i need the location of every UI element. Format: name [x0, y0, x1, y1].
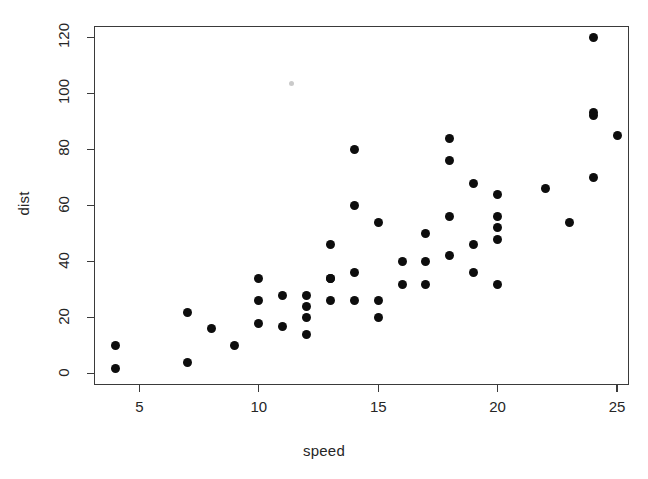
y-tick-mark — [87, 149, 94, 150]
x-tick-label: 5 — [119, 398, 159, 415]
data-point — [326, 296, 335, 305]
y-tick-mark — [87, 373, 94, 374]
data-point — [302, 302, 311, 311]
y-tick-mark — [87, 37, 94, 38]
data-point — [493, 223, 502, 232]
data-point — [254, 296, 263, 305]
data-point — [589, 33, 598, 42]
data-point — [493, 235, 502, 244]
data-point — [111, 341, 120, 350]
x-tick-label: 25 — [597, 398, 637, 415]
x-tick-mark — [378, 385, 379, 392]
x-tick-mark — [258, 385, 259, 392]
data-point — [469, 268, 478, 277]
data-point — [469, 240, 478, 249]
data-point — [302, 313, 311, 322]
x-axis-title: speed — [0, 442, 648, 459]
data-point — [230, 341, 239, 350]
data-point — [302, 330, 311, 339]
data-point — [493, 212, 502, 221]
data-point — [278, 322, 287, 331]
scatter-plot-figure: dist speed 020406080100120 510152025 — [0, 0, 648, 479]
data-point — [445, 251, 454, 260]
data-point — [350, 201, 359, 210]
x-tick-label: 15 — [358, 398, 398, 415]
data-point — [350, 145, 359, 154]
data-point — [183, 308, 192, 317]
data-point — [111, 364, 120, 373]
data-point — [589, 173, 598, 182]
x-tick-mark — [139, 385, 140, 392]
y-tick-mark — [87, 261, 94, 262]
data-point — [398, 280, 407, 289]
scan-speck-artifact — [289, 81, 294, 86]
y-tick-label: 40 — [55, 241, 72, 279]
data-point — [421, 280, 430, 289]
y-tick-mark — [87, 205, 94, 206]
y-tick-label: 80 — [55, 129, 72, 167]
y-tick-label: 20 — [55, 297, 72, 335]
plot-data-area — [94, 26, 629, 385]
x-tick-label: 10 — [239, 398, 279, 415]
data-point — [350, 268, 359, 277]
data-point — [445, 156, 454, 165]
data-point — [207, 324, 216, 333]
data-point — [254, 274, 263, 283]
data-point — [254, 319, 263, 328]
y-tick-mark — [87, 317, 94, 318]
data-point — [541, 184, 550, 193]
data-point — [374, 296, 383, 305]
data-point — [613, 131, 622, 140]
x-tick-label: 20 — [478, 398, 518, 415]
data-point — [374, 313, 383, 322]
y-tick-label: 120 — [55, 17, 72, 55]
data-point — [565, 218, 574, 227]
y-axis-title: dist — [15, 181, 32, 227]
data-point — [421, 229, 430, 238]
data-point — [469, 179, 478, 188]
x-tick-mark — [497, 385, 498, 392]
data-point — [374, 218, 383, 227]
data-point — [421, 257, 430, 266]
data-point — [493, 190, 502, 199]
data-point — [326, 274, 335, 283]
y-tick-mark — [87, 93, 94, 94]
data-point — [398, 257, 407, 266]
data-point — [278, 291, 287, 300]
data-point — [302, 291, 311, 300]
data-point — [183, 358, 192, 367]
y-tick-label: 0 — [55, 353, 72, 391]
x-tick-mark — [616, 385, 617, 392]
data-point — [445, 212, 454, 221]
data-point — [493, 280, 502, 289]
data-point — [350, 296, 359, 305]
data-point — [326, 240, 335, 249]
y-tick-label: 60 — [55, 185, 72, 223]
data-point — [445, 134, 454, 143]
y-tick-label: 100 — [55, 73, 72, 111]
